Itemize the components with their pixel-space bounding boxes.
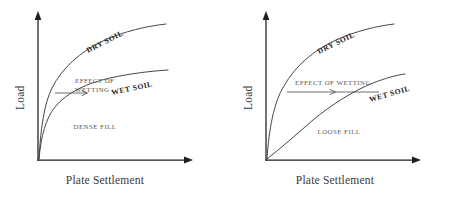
wet-soil-label: WET SOIL: [111, 79, 154, 97]
x-axis: [266, 157, 421, 164]
y-axis-arrow-icon: [35, 11, 42, 20]
effect-of-wetting-arrow: [287, 89, 379, 94]
y-axis: [263, 11, 270, 160]
panel-dense-fill: DRY SOIL WET SOIL EFFECT OF WETTING DENS…: [0, 0, 226, 199]
effect-of-wetting-label-line2: WETTING: [75, 86, 110, 93]
x-axis-title: Plate Settlement: [66, 174, 145, 186]
wet-soil-label: WET SOIL: [368, 84, 411, 104]
fill-type-label: LOOSE FILL: [318, 128, 361, 135]
panel-loose-fill: DRY SOIL WET SOIL EFFECT OF WETTING LOOS…: [227, 0, 453, 199]
x-axis-title: Plate Settlement: [296, 174, 375, 186]
effect-of-wetting-label-line1: EFFECT OF: [75, 77, 114, 84]
y-axis-title: Load: [14, 86, 26, 110]
effect-of-wetting-label: EFFECT OF WETTING: [295, 79, 371, 86]
dry-soil-label: DRY SOIL: [316, 30, 356, 56]
load-settlement-figure: DRY SOIL WET SOIL EFFECT OF WETTING DENS…: [0, 0, 453, 199]
fill-type-label: DENSE FILL: [74, 123, 117, 130]
x-axis-arrow-icon: [412, 157, 421, 164]
x-axis: [38, 157, 193, 164]
y-axis-arrow-icon: [263, 11, 270, 20]
x-axis-arrow-icon: [184, 157, 193, 164]
dry-soil-label: DRY SOIL: [85, 28, 125, 54]
wet-soil-curve: [267, 74, 405, 159]
y-axis-title: Load: [242, 86, 254, 110]
